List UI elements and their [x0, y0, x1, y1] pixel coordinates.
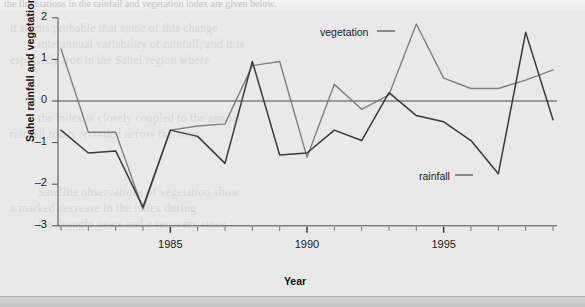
- y-tick-label: –2: [21, 176, 47, 188]
- y-tick-label: 0: [21, 93, 47, 105]
- x-axis-label: Year: [255, 275, 335, 287]
- y-tick-label: –3: [21, 218, 47, 230]
- y-tick-label: –1: [21, 135, 47, 147]
- x-tick-label: 1990: [284, 238, 330, 250]
- series-line-rainfall: [61, 32, 553, 207]
- x-tick-label: 1985: [147, 238, 193, 250]
- x-tick-label: 1995: [421, 238, 467, 250]
- annotation-rainfall: rainfall: [419, 170, 450, 182]
- y-tick-label: 2: [21, 10, 47, 22]
- annotation-vegetation: vegetation: [320, 26, 368, 38]
- page-bottom-edge: [0, 296, 585, 307]
- y-tick-label: 1: [21, 51, 47, 63]
- series-line-vegetation: [61, 24, 553, 209]
